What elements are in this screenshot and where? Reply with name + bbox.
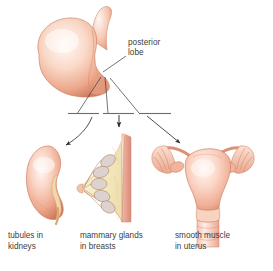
- caption-breast-line1: mammary glands: [80, 231, 143, 240]
- caption-uterus-line2: in uterus: [175, 242, 206, 251]
- caption-uterus-line1: smooth muscle: [175, 231, 230, 240]
- caption-tubules-in-kidneys: tubules inkidneys: [8, 231, 43, 252]
- arrow-to-uterus: [147, 116, 180, 143]
- caption-kidney-line2: kidneys: [8, 242, 36, 251]
- caption-kidney-line1: tubules in: [8, 231, 43, 240]
- gland-highlight: [45, 29, 79, 53]
- uterus-body: [185, 149, 230, 214]
- breast-illustration: [77, 134, 131, 222]
- caption-mammary-glands-in-breasts: mammary glandsin breasts: [80, 231, 143, 252]
- lobule-3: [91, 178, 107, 190]
- breast-nipple: [77, 184, 83, 193]
- pituitary-gland-illustration: [38, 7, 112, 98]
- leader-line-posterior-lobe: [103, 56, 126, 72]
- kidney-highlight: [33, 157, 55, 173]
- breast-chest-wall: [122, 134, 131, 222]
- cervix: [196, 208, 220, 222]
- caption-smooth-muscle-in-uterus: smooth musclein uterus: [175, 231, 230, 252]
- anatomy-figure: posteriorlobe tubules inkidneys mammary …: [0, 0, 273, 271]
- caption-breast-line2: in breasts: [80, 242, 116, 251]
- fan-line-right: [110, 78, 139, 113]
- arrow-to-kidney: [66, 117, 92, 145]
- uterus-highlight: [191, 159, 215, 177]
- kidney-illustration: [26, 146, 63, 224]
